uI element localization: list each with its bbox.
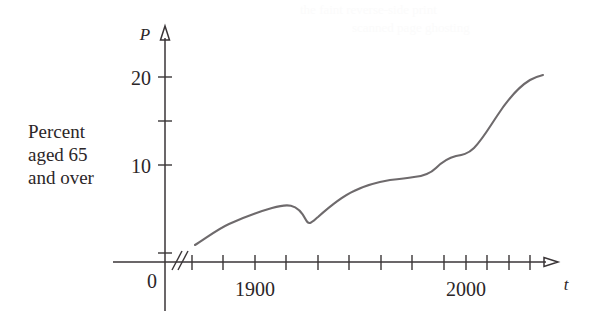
y-tick-label-20: 20: [131, 67, 151, 89]
caption-line-1: Percent: [28, 121, 86, 142]
y-axis-title-P: P: [139, 25, 150, 44]
y-axis-caption-block: Percent aged 65 and over: [28, 121, 95, 188]
origin-label-zero: 0: [147, 270, 157, 292]
chart-canvas: 10 20 P: [0, 0, 591, 324]
caption-line-3: and over: [28, 167, 95, 188]
figure-percent-aged-65-and-over: the faint reverse-side print scanned pag…: [0, 0, 591, 324]
x-axis-title-t: t: [564, 275, 570, 294]
curve-path: [195, 75, 543, 245]
x-tick-label-1900: 1900: [235, 278, 275, 300]
caption-line-2: aged 65: [28, 144, 88, 165]
x-axis-arrowhead: [544, 258, 558, 267]
x-axis-group: 1900 2000 t: [113, 251, 570, 300]
axis-break-double-slash-icon: [172, 251, 188, 270]
y-axis-arrowhead: [161, 26, 170, 40]
x-tick-label-2000: 2000: [446, 278, 486, 300]
data-series-percent-aged-65: [195, 75, 543, 245]
y-axis-group: 10 20 P: [131, 25, 172, 311]
y-tick-label-10: 10: [131, 155, 151, 177]
